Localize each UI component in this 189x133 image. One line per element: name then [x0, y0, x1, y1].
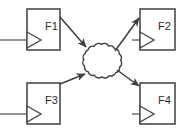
- arrow-cloud-to-f2: [115, 18, 139, 51]
- block-f3-label: F3: [45, 94, 58, 106]
- arrow-f1-to-cloud: [60, 17, 86, 47]
- block-f1-label: F1: [45, 20, 58, 32]
- block-f1[interactable]: F1: [0, 9, 60, 50]
- diagram-svg: F1 F2 F3 F4: [0, 0, 189, 133]
- block-f4[interactable]: F4: [132, 83, 175, 124]
- arrow-cloud-to-f4: [117, 70, 139, 86]
- block-f2-label: F2: [158, 20, 171, 32]
- block-f3[interactable]: F3: [0, 83, 60, 124]
- diagram-canvas: F1 F2 F3 F4: [0, 0, 189, 133]
- block-f2[interactable]: F2: [132, 9, 175, 50]
- arrow-f3-to-cloud: [60, 74, 85, 84]
- block-f4-label: F4: [158, 94, 171, 106]
